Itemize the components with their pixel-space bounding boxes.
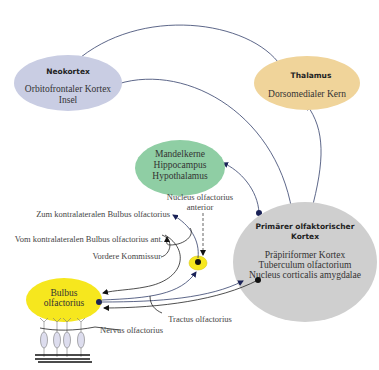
limbic-line1: Mandelkerne xyxy=(155,149,205,159)
line-from-contralateral xyxy=(167,228,192,245)
nucleus-anterior-dot xyxy=(195,259,201,265)
bulbus-line1: Bulbus xyxy=(51,288,78,298)
neokortex-line1: Orbitofrontaler Kortex xyxy=(25,84,112,94)
bulbus-line2: olfactorius xyxy=(44,298,85,308)
label-nucleus-anterior-2: anterior xyxy=(187,202,214,212)
node-thalamus: Thalamus Dorsomedialer Kern xyxy=(254,56,360,110)
primary-line1: Präpiriformer Kortex xyxy=(265,250,346,260)
label-nervus: Nervus olfactorius xyxy=(100,325,163,335)
arrow-primary-to-thalamus xyxy=(307,105,321,212)
label-vordere-kommissur: Vordere Kommissur xyxy=(92,251,161,261)
node-primary-olfactory-cortex: Primärer olfaktorischer Kortex Präpirifo… xyxy=(233,202,377,322)
olfactory-pathway-diagram: Neokortex Orbitofrontaler Kortex Insel T… xyxy=(0,0,379,370)
neokortex-line2: Insel xyxy=(59,95,78,105)
label-vom-kontralateralen: Vom kontralateralen Bulbus olfactorius a… xyxy=(15,234,163,244)
limbic-line2: Hippocampus xyxy=(154,160,207,170)
arrow-to-contralateral xyxy=(173,215,198,258)
label-tractus: Tractus olfactorius xyxy=(168,314,232,324)
pointer-tractus xyxy=(150,296,162,313)
node-bulbus-olfactorius: Bulbus olfactorius xyxy=(26,278,102,322)
node-neokortex: Neokortex Orbitofrontaler Kortex Insel xyxy=(14,55,122,111)
origin-dot-primary-bulbus xyxy=(255,277,261,283)
arrow-thalamus-to-neokortex xyxy=(75,25,281,66)
olfactory-receptor-cells xyxy=(40,318,85,357)
label-nucleus-anterior-1: Nucleus olfactorius xyxy=(167,192,233,202)
thalamus-title: Thalamus xyxy=(291,71,332,80)
node-limbic: Mandelkerne Hippocampus Hypothalamus xyxy=(135,140,225,196)
cribriform-plate xyxy=(35,355,92,362)
arrow-primary-to-bulbus xyxy=(104,280,258,308)
limbic-line3: Hypothalamus xyxy=(152,171,208,181)
primary-line3: Nucleus corticalis amygdalae xyxy=(249,270,361,280)
bulbus-output-dot xyxy=(96,299,102,305)
arrow-primary-to-limbic xyxy=(223,163,259,213)
primary-line2: Tuberculum olfactorium xyxy=(259,260,352,270)
neokortex-title: Neokortex xyxy=(46,67,90,76)
primary-title2: Kortex xyxy=(291,232,319,241)
thalamus-line1: Dorsomedialer Kern xyxy=(268,89,346,99)
primary-title1: Primärer olfaktorischer xyxy=(256,222,355,231)
label-zum-kontralateralen: Zum kontralateralen Bulbus olfactorius xyxy=(36,209,170,219)
